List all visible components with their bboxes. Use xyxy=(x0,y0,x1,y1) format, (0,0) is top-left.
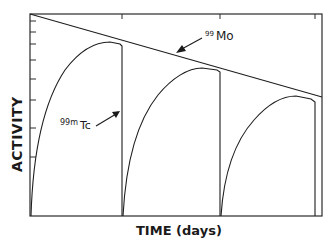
top-axis-ticks xyxy=(122,14,315,19)
arrowhead-icon xyxy=(112,111,120,118)
tc-generator-activity-diagram: 99 Mo 99m Tc ACTIVITY TIME (days) xyxy=(0,0,333,244)
arrowhead-icon xyxy=(176,45,186,53)
plot-frame xyxy=(30,14,322,216)
tc99m-curve-2 xyxy=(123,68,220,216)
tc99m-curve-3 xyxy=(221,96,315,216)
mo99-annotation: 99 Mo xyxy=(176,29,234,53)
x-axis-label: TIME (days) xyxy=(136,223,222,238)
y-axis-label: ACTIVITY xyxy=(9,96,25,172)
tc99m-curve-1 xyxy=(31,42,122,216)
y-axis-ticks xyxy=(30,21,36,157)
svg-text:99: 99 xyxy=(205,30,214,38)
tc99m-annotation: 99m Tc xyxy=(60,111,120,132)
svg-text:Mo: Mo xyxy=(216,29,234,43)
svg-text:Tc: Tc xyxy=(79,119,91,132)
mo99-decay-line xyxy=(30,14,322,97)
svg-text:99m: 99m xyxy=(60,118,78,127)
